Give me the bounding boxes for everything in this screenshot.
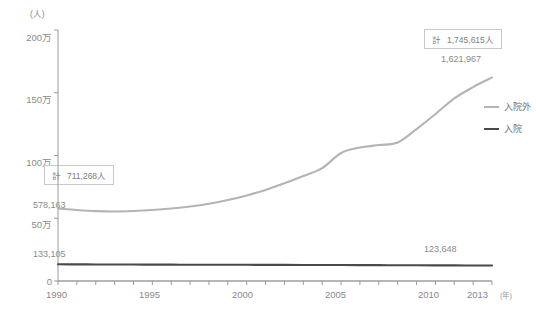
chart-container: (人) 200万 150万 100万 50万 0 1990 1995 2000 …	[0, 0, 536, 315]
y-axis-ticks	[54, 30, 58, 281]
axis-lines	[58, 30, 492, 281]
plot-area	[0, 0, 536, 315]
x-axis-ticks	[58, 281, 492, 285]
line-series-inpatient	[58, 264, 492, 265]
line-series-outpatient	[58, 77, 492, 211]
